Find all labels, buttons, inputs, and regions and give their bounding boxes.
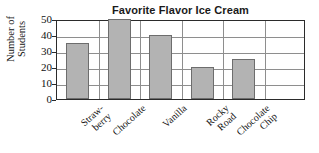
category-separator	[223, 21, 224, 99]
gridline	[57, 69, 304, 70]
y-tick-label: 40	[10, 30, 52, 41]
category-separator	[99, 21, 100, 99]
chart-title: Favorite Flavor Ice Cream	[56, 4, 305, 16]
bar	[191, 67, 214, 99]
bar	[149, 35, 172, 99]
category-separator	[140, 21, 141, 99]
y-tick-mark	[52, 100, 56, 101]
y-tick-label: 10	[10, 78, 52, 89]
category-separator	[182, 21, 183, 99]
category-separator	[265, 21, 266, 99]
bar	[232, 59, 255, 99]
plot-area	[56, 20, 305, 100]
bar	[108, 19, 131, 99]
gridline	[57, 85, 304, 86]
y-tick-label: 50	[10, 14, 52, 25]
y-tick-label: 20	[10, 62, 52, 73]
bar-chart: Favorite Flavor Ice Cream Number of Stud…	[0, 0, 319, 153]
gridline	[57, 37, 304, 38]
gridline	[57, 53, 304, 54]
bar	[66, 43, 89, 99]
y-tick-label: 30	[10, 46, 52, 57]
y-tick-label: 0	[10, 94, 52, 105]
